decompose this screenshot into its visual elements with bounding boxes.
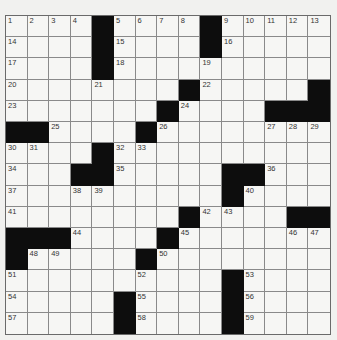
crossword-cell[interactable]: 9 (222, 16, 244, 37)
crossword-cell[interactable]: 44 (71, 228, 93, 249)
crossword-cell[interactable] (49, 270, 71, 291)
crossword-cell[interactable] (287, 80, 309, 101)
crossword-cell[interactable]: 24 (179, 101, 201, 122)
crossword-cell[interactable] (157, 186, 179, 207)
crossword-cell[interactable] (265, 37, 287, 58)
crossword-cell[interactable]: 57 (6, 313, 28, 334)
crossword-cell[interactable]: 4 (71, 16, 93, 37)
crossword-cell[interactable] (179, 249, 201, 270)
crossword-cell[interactable]: 15 (114, 37, 136, 58)
crossword-cell[interactable]: 3 (49, 16, 71, 37)
crossword-cell[interactable]: 6 (136, 16, 158, 37)
crossword-cell[interactable] (200, 270, 222, 291)
crossword-cell[interactable]: 26 (157, 122, 179, 143)
crossword-cell[interactable] (28, 58, 50, 79)
crossword-cell[interactable] (49, 313, 71, 334)
crossword-cell[interactable] (92, 101, 114, 122)
crossword-cell[interactable] (28, 313, 50, 334)
crossword-cell[interactable] (244, 58, 266, 79)
crossword-cell[interactable]: 38 (71, 186, 93, 207)
crossword-cell[interactable]: 47 (308, 228, 330, 249)
crossword-cell[interactable] (157, 143, 179, 164)
crossword-cell[interactable]: 13 (308, 16, 330, 37)
crossword-cell[interactable] (28, 37, 50, 58)
crossword-cell[interactable] (265, 228, 287, 249)
crossword-cell[interactable] (49, 186, 71, 207)
crossword-cell[interactable] (244, 249, 266, 270)
crossword-cell[interactable] (114, 228, 136, 249)
crossword-cell[interactable] (157, 270, 179, 291)
crossword-cell[interactable]: 52 (136, 270, 158, 291)
crossword-cell[interactable]: 11 (265, 16, 287, 37)
crossword-cell[interactable] (179, 164, 201, 185)
crossword-cell[interactable]: 41 (6, 207, 28, 228)
crossword-cell[interactable]: 35 (114, 164, 136, 185)
crossword-cell[interactable]: 25 (49, 122, 71, 143)
crossword-cell[interactable]: 31 (28, 143, 50, 164)
crossword-cell[interactable] (308, 143, 330, 164)
crossword-cell[interactable] (179, 186, 201, 207)
crossword-cell[interactable] (200, 292, 222, 313)
crossword-cell[interactable] (157, 292, 179, 313)
crossword-cell[interactable] (136, 164, 158, 185)
crossword-cell[interactable] (265, 58, 287, 79)
crossword-cell[interactable] (71, 37, 93, 58)
crossword-cell[interactable] (287, 186, 309, 207)
crossword-cell[interactable] (28, 207, 50, 228)
crossword-cell[interactable]: 58 (136, 313, 158, 334)
crossword-cell[interactable]: 21 (92, 80, 114, 101)
crossword-cell[interactable] (287, 270, 309, 291)
crossword-cell[interactable]: 23 (6, 101, 28, 122)
crossword-cell[interactable] (308, 58, 330, 79)
crossword-cell[interactable] (265, 80, 287, 101)
crossword-cell[interactable] (179, 58, 201, 79)
crossword-cell[interactable] (179, 143, 201, 164)
crossword-cell[interactable]: 46 (287, 228, 309, 249)
crossword-cell[interactable] (200, 249, 222, 270)
crossword-cell[interactable] (49, 164, 71, 185)
crossword-cell[interactable] (136, 58, 158, 79)
crossword-cell[interactable]: 19 (200, 58, 222, 79)
crossword-cell[interactable]: 37 (6, 186, 28, 207)
crossword-cell[interactable] (49, 80, 71, 101)
crossword-cell[interactable]: 39 (92, 186, 114, 207)
crossword-cell[interactable] (200, 186, 222, 207)
crossword-cell[interactable] (244, 122, 266, 143)
crossword-cell[interactable] (265, 270, 287, 291)
crossword-cell[interactable] (71, 292, 93, 313)
crossword-cell[interactable] (222, 122, 244, 143)
crossword-cell[interactable]: 2 (28, 16, 50, 37)
crossword-cell[interactable] (157, 58, 179, 79)
crossword-cell[interactable] (136, 207, 158, 228)
crossword-cell[interactable] (114, 80, 136, 101)
crossword-cell[interactable]: 59 (244, 313, 266, 334)
crossword-cell[interactable] (287, 292, 309, 313)
crossword-cell[interactable] (92, 122, 114, 143)
crossword-cell[interactable]: 33 (136, 143, 158, 164)
crossword-cell[interactable] (200, 143, 222, 164)
crossword-cell[interactable] (244, 101, 266, 122)
crossword-cell[interactable] (49, 292, 71, 313)
crossword-cell[interactable] (28, 270, 50, 291)
crossword-cell[interactable]: 54 (6, 292, 28, 313)
crossword-cell[interactable] (49, 101, 71, 122)
crossword-cell[interactable]: 53 (244, 270, 266, 291)
crossword-cell[interactable]: 49 (49, 249, 71, 270)
crossword-cell[interactable] (308, 270, 330, 291)
crossword-cell[interactable] (244, 80, 266, 101)
crossword-cell[interactable] (222, 101, 244, 122)
crossword-cell[interactable]: 28 (287, 122, 309, 143)
crossword-cell[interactable] (200, 228, 222, 249)
crossword-cell[interactable] (136, 80, 158, 101)
crossword-cell[interactable] (200, 313, 222, 334)
crossword-cell[interactable] (28, 292, 50, 313)
crossword-cell[interactable] (92, 207, 114, 228)
crossword-cell[interactable] (136, 101, 158, 122)
crossword-cell[interactable] (244, 228, 266, 249)
crossword-cell[interactable] (287, 164, 309, 185)
crossword-cell[interactable] (114, 207, 136, 228)
crossword-cell[interactable] (136, 37, 158, 58)
crossword-cell[interactable] (49, 143, 71, 164)
crossword-cell[interactable] (200, 101, 222, 122)
crossword-cell[interactable] (265, 292, 287, 313)
